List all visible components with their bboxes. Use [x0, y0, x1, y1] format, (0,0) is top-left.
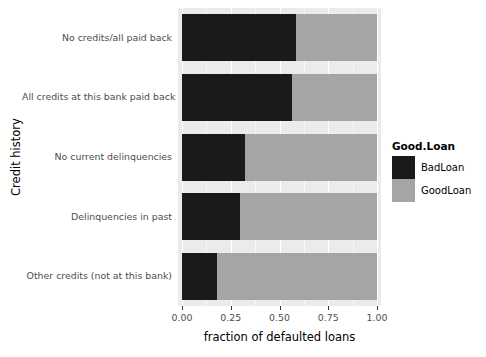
x-axis-tick-label: 0.75 [308, 312, 348, 323]
legend-item[interactable]: GoodLoan [392, 179, 484, 202]
legend-color-swatch [392, 156, 415, 179]
bar-segment-goodloan [245, 134, 377, 181]
legend-entries: BadLoanGoodLoan [392, 156, 484, 202]
bar-row [178, 14, 381, 61]
legend-item-label: GoodLoan [421, 185, 471, 196]
legend-color-swatch [392, 179, 415, 202]
stacked-bar-chart: Credit history No credits/all paid backA… [0, 0, 486, 357]
x-axis-tick-label: 1.00 [357, 312, 397, 323]
x-axis-tick-label: 0.25 [211, 312, 251, 323]
y-axis-tick-label: Delinquencies in past [22, 211, 172, 222]
bar-segment-goodloan [296, 14, 377, 61]
bar-segment-badloan [182, 14, 296, 61]
bar-row [178, 193, 381, 240]
x-axis-tick-mark [280, 306, 281, 310]
x-axis-tick-mark [231, 306, 232, 310]
bar-row [178, 74, 381, 121]
bar-segment-badloan [182, 253, 217, 300]
bar-row [178, 134, 381, 181]
legend: Good.Loan BadLoanGoodLoan [392, 140, 484, 202]
x-axis-tick-mark [328, 306, 329, 310]
bar-segment-goodloan [217, 253, 377, 300]
legend-item-label: BadLoan [421, 162, 464, 173]
y-axis-tick-label: Other credits (not at this bank) [22, 270, 172, 281]
legend-title: Good.Loan [392, 140, 484, 152]
x-axis-tick-mark [377, 306, 378, 310]
x-axis-tick-label: 0.50 [260, 312, 300, 323]
y-axis-tick-labels: No credits/all paid backAll credits at t… [20, 0, 172, 357]
bar-segment-goodloan [240, 193, 377, 240]
bar-segment-badloan [182, 134, 245, 181]
bar-segment-badloan [182, 193, 240, 240]
legend-item[interactable]: BadLoan [392, 156, 484, 179]
y-axis-tick-label: All credits at this bank paid back [22, 91, 172, 102]
bar-row [178, 253, 381, 300]
x-axis-tick-mark [182, 306, 183, 310]
bar-segment-badloan [182, 74, 292, 121]
y-axis-tick-label: No credits/all paid back [22, 32, 172, 43]
x-axis-title: fraction of defaulted loans [178, 330, 381, 344]
y-axis-tick-label: No current delinquencies [22, 151, 172, 162]
bar-segment-goodloan [292, 74, 377, 121]
plot-panel [178, 8, 381, 306]
x-axis-tick-label: 0.00 [162, 312, 202, 323]
